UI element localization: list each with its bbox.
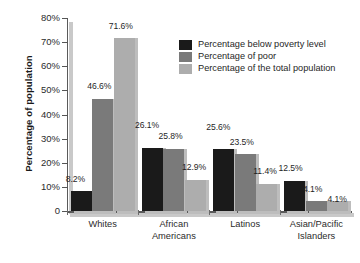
x-axis-tick-mark — [138, 210, 139, 215]
bar — [92, 99, 113, 211]
category-label-line1: Whites — [67, 219, 138, 231]
y-axis-tick-label: 40% — [26, 110, 60, 120]
bar-value-label: 8.2% — [66, 175, 86, 184]
category-label-line2: Americans — [138, 231, 209, 243]
y-axis-tick-label: 10% — [26, 182, 60, 192]
legend-item: Percentage of the total population — [179, 63, 355, 75]
bar — [306, 201, 327, 211]
bar-side-face — [348, 201, 351, 214]
legend-label: Percentage below poverty level — [198, 40, 326, 49]
category-label-line1: African — [138, 219, 209, 231]
y-axis-tick-label: 80% — [26, 13, 60, 23]
y-axis-tick-label: 30% — [26, 134, 60, 144]
x-axis-category-label: Whites — [67, 219, 138, 231]
bar-value-label: 12.5% — [278, 164, 302, 173]
y-axis-tick-label: 50% — [26, 85, 60, 95]
x-axis-category-labels: WhitesAfricanAmericansLatinosAsian/Pacif… — [67, 219, 352, 259]
bar — [163, 149, 184, 211]
bar — [71, 191, 92, 211]
legend-item: Percentage below poverty level — [179, 39, 355, 51]
bar-value-label: 23.5% — [230, 138, 254, 147]
bar-value-label: 71.6% — [109, 22, 133, 31]
bar-side-face — [206, 180, 209, 214]
bar-chart: Percentage of population 80%70%60%50%40%… — [0, 0, 360, 263]
bar — [185, 180, 206, 211]
bar-value-label: 11.4% — [253, 167, 277, 176]
bar — [114, 38, 135, 211]
bar — [142, 148, 163, 211]
bar-group: 8.2%46.6%71.6% — [67, 18, 138, 211]
bar-value-label: 12.9% — [182, 163, 206, 172]
x-axis-tick-mark — [209, 210, 210, 215]
y-axis-tick-label: 0 — [26, 206, 60, 216]
bar — [235, 154, 256, 211]
x-axis-tick-mark — [280, 210, 281, 215]
bar — [213, 149, 234, 211]
y-axis-tick-labels: 80%70%60%50%40%30%20%10%0 — [22, 0, 60, 263]
y-axis-tick-label: 20% — [26, 158, 60, 168]
y-axis-tick-label: 60% — [26, 61, 60, 71]
category-label-line2: Islanders — [281, 231, 352, 243]
category-label-line1: Latinos — [210, 219, 281, 231]
legend-item: Percentage of poor — [179, 51, 355, 63]
bar-value-label: 4.1% — [303, 185, 323, 194]
legend-color-swatch — [179, 40, 192, 50]
category-label-line1: Asian/Pacific — [281, 219, 352, 231]
legend-color-swatch — [179, 64, 192, 74]
x-axis-category-label: Asian/PacificIslanders — [281, 219, 352, 242]
x-axis-category-label: Latinos — [210, 219, 281, 231]
bar-value-label: 4.1% — [327, 195, 347, 204]
y-axis-tick-label: 70% — [26, 37, 60, 47]
legend-label: Percentage of the total population — [198, 64, 335, 73]
bar-value-label: 25.8% — [158, 132, 182, 141]
bar-value-label: 25.6% — [206, 123, 230, 132]
bar-value-label: 26.1% — [135, 121, 159, 130]
legend-label: Percentage of poor — [198, 52, 276, 61]
legend: Percentage below poverty levelPercentage… — [179, 39, 355, 75]
legend-color-swatch — [179, 52, 192, 62]
bar-value-label: 46.6% — [87, 82, 111, 91]
x-axis-tick-mark — [67, 210, 68, 215]
x-axis-category-label: AfricanAmericans — [138, 219, 209, 242]
bar — [256, 184, 277, 212]
